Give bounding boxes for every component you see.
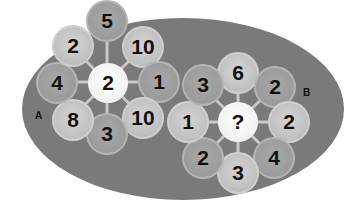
wheel-a-node-bottom-right: 10 (122, 97, 164, 139)
wheel-a-node-top-left: 2 (52, 25, 94, 67)
wheel-a-center: 2 (88, 63, 128, 103)
wheel-a-node-bottom-left: 8 (52, 99, 94, 141)
wheel-b-label: B (303, 87, 310, 98)
wheel-b-node-top-left: 3 (182, 64, 224, 106)
wheel-b-center: ? (218, 102, 258, 142)
puzzle-canvas: 5 10 1 10 3 8 4 2 2 A 6 2 2 4 3 2 1 3 ? … (0, 0, 348, 206)
wheel-a-label: A (35, 110, 42, 121)
wheel-b-node-left: 1 (167, 101, 209, 143)
wheel-a-node-top: 5 (86, 0, 128, 42)
wheel-b-node-bottom-left: 2 (182, 137, 224, 179)
wheel-b-node-bottom-right: 4 (253, 137, 295, 179)
wheel-a-node-left: 4 (36, 62, 78, 104)
